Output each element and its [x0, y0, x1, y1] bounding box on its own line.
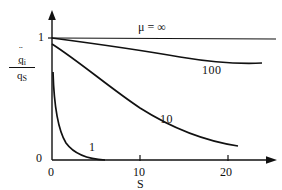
y-axis-label-denominator-subscript: S: [23, 74, 27, 83]
y-axis-label-numerator: qi: [5, 54, 39, 66]
y-axis-label-denominator: qS: [5, 70, 39, 81]
figure: qi qS 1 0 0 10 20 S μ = ∞ 100 10 1: [0, 0, 282, 190]
curve-label-10: 10: [160, 113, 173, 125]
curve-mu-1: [53, 72, 105, 160]
curve-mu-10: [52, 44, 238, 146]
curve-label-100: 100: [202, 64, 222, 76]
y-axis-arrowhead: [48, 10, 56, 20]
curve-mu-infinity: [52, 38, 276, 39]
x-axis-label: S: [137, 178, 144, 190]
x-tick-label-0: 0: [48, 166, 54, 178]
x-axis-arrowhead: [266, 156, 277, 164]
y-axis-label: qi qS: [5, 54, 39, 81]
y-tick-label-1: 1: [38, 31, 44, 43]
x-tick-label-20: 20: [220, 166, 232, 178]
y-axis-label-numerator-subscript: i: [24, 58, 26, 67]
fraction-bar: [9, 67, 35, 68]
y-tick-label-0: 0: [36, 152, 42, 164]
curve-label-1: 1: [89, 141, 95, 153]
curve-label-mu-infinity: μ = ∞: [138, 21, 166, 33]
curve-mu-100: [52, 38, 262, 63]
